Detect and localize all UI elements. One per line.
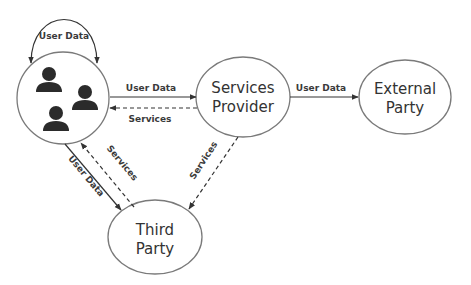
services-provider-node: Services Provider xyxy=(196,57,290,137)
edge-label: User Data xyxy=(66,154,106,199)
node-label-line2: Party xyxy=(386,99,425,117)
edge-label: Services xyxy=(188,140,220,181)
node-label-line2: Party xyxy=(136,240,175,258)
edge-label: Services xyxy=(129,114,172,124)
users-node xyxy=(17,52,109,144)
data-flow-diagram: User Data Services Provider External Par… xyxy=(0,0,471,285)
edge-provider-to-external: User Data xyxy=(290,83,358,97)
edge-label: User Data xyxy=(126,83,176,93)
node-label-line1: Third xyxy=(135,221,174,239)
external-party-node: External Party xyxy=(359,60,451,134)
third-party-node: Third Party xyxy=(108,200,202,274)
edge-label: User Data xyxy=(296,83,346,93)
node-label-line1: Services xyxy=(211,79,274,97)
edge-users-to-provider: User Data xyxy=(110,83,196,97)
edge-provider-to-third: Services xyxy=(188,137,238,209)
node-label-line1: External xyxy=(374,80,436,98)
node-label-line2: Provider xyxy=(212,98,275,116)
edge-label: Services xyxy=(105,143,140,182)
edge-provider-to-users: Services xyxy=(110,108,197,124)
edge-label: User Data xyxy=(39,31,89,41)
